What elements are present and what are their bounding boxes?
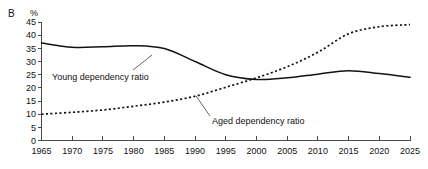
y-tick-label: 30 bbox=[26, 57, 36, 67]
series-label-aged-dependency-ratio: Aged dependency ratio bbox=[212, 116, 305, 126]
chart-container: B % 051015202530354045 19651970197519801… bbox=[0, 0, 428, 169]
panel-letter-label: B bbox=[8, 8, 15, 19]
x-tick-label: 2005 bbox=[277, 146, 297, 156]
x-tick-label: 2025 bbox=[400, 146, 420, 156]
y-tick-label: 20 bbox=[26, 83, 36, 93]
y-tick-label: 45 bbox=[26, 17, 36, 27]
x-tick-label: 2015 bbox=[339, 146, 359, 156]
x-tick-label: 1985 bbox=[154, 146, 174, 156]
y-tick-label: 5 bbox=[31, 123, 36, 133]
y-tick-label: 35 bbox=[26, 44, 36, 54]
x-tick-label: 1970 bbox=[62, 146, 82, 156]
x-tick-label: 2020 bbox=[369, 146, 389, 156]
x-tick-label: 1975 bbox=[93, 146, 113, 156]
x-tick-label: 1990 bbox=[185, 146, 205, 156]
y-tick-label: 40 bbox=[26, 30, 36, 40]
y-tick-label: 15 bbox=[26, 96, 36, 106]
series-label-young-dependency-ratio: Young dependency ratio bbox=[52, 72, 149, 82]
x-tick-label: 1965 bbox=[31, 146, 51, 156]
x-tick-label: 2010 bbox=[308, 146, 328, 156]
x-tick-label: 1980 bbox=[124, 146, 144, 156]
x-tick-label: 2000 bbox=[246, 146, 266, 156]
chart-background bbox=[0, 0, 428, 169]
y-tick-label: 25 bbox=[26, 70, 36, 80]
x-tick-label: 1995 bbox=[216, 146, 236, 156]
y-tick-label: 0 bbox=[31, 136, 36, 146]
y-tick-label: 10 bbox=[26, 109, 36, 119]
dependency-ratio-line-chart: B % 051015202530354045 19651970197519801… bbox=[0, 0, 428, 169]
